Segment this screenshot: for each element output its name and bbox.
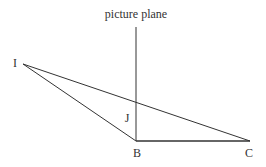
picture-plane-label: picture plane bbox=[105, 7, 167, 21]
point-label-B: B bbox=[133, 146, 141, 160]
perspective-diagram: picture plane I J B C bbox=[0, 0, 266, 167]
point-label-I: I bbox=[13, 56, 17, 70]
point-label-J: J bbox=[125, 111, 130, 125]
line-IB bbox=[23, 64, 136, 141]
point-label-C: C bbox=[245, 146, 253, 160]
